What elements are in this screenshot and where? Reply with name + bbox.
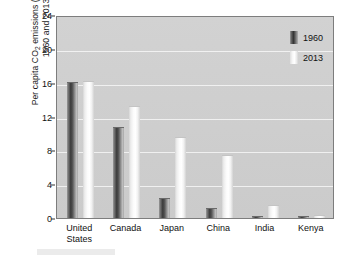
- y-axis-tick-label: 16: [30, 79, 52, 89]
- y-axis-tick-label: 20: [30, 45, 52, 55]
- bar-1960: [113, 127, 124, 218]
- x-axis-category-label: Kenya: [298, 223, 324, 234]
- bar-group: [196, 16, 242, 218]
- bar-2013: [222, 155, 233, 218]
- bar-1960: [298, 216, 309, 218]
- y-axis-tick-label: 24: [30, 11, 52, 21]
- y-axis-tick-mark: [51, 185, 55, 186]
- bar-2013: [268, 205, 279, 218]
- legend-item-1960: 1960: [290, 31, 323, 44]
- y-axis-tick-label: 4: [30, 180, 52, 190]
- y-axis-title-line1-rest: emissions (metric tons),: [30, 0, 40, 46]
- chart-figure: Per capita CO2 emissions (metric tons), …: [0, 0, 352, 259]
- x-axis-category-label: India: [255, 223, 275, 234]
- legend-label-2013: 2013: [303, 53, 323, 63]
- x-axis-category-label: Japan: [160, 223, 185, 234]
- bar-1960: [159, 198, 170, 218]
- x-axis-category-label: United States: [66, 223, 92, 244]
- y-axis-tick-label: 0: [30, 214, 52, 224]
- y-axis-tick-mark: [51, 16, 55, 17]
- bar-2013: [175, 137, 186, 218]
- bar-1960: [252, 216, 263, 218]
- legend-swatch-1960-icon: [290, 31, 298, 44]
- legend-swatch-2013-icon: [290, 51, 298, 64]
- bar-1960: [67, 82, 78, 218]
- legend-label-1960: 1960: [303, 33, 323, 43]
- bar-group: [57, 16, 103, 218]
- y-axis-tick-mark: [51, 49, 55, 50]
- y-axis-tick-mark: [51, 219, 55, 220]
- bar-2013: [129, 106, 140, 218]
- bar-group: [103, 16, 149, 218]
- bar-2013: [83, 81, 94, 218]
- bar-group: [242, 16, 288, 218]
- plot-area: 1960 2013: [56, 16, 334, 219]
- y-axis-tick-mark: [51, 151, 55, 152]
- x-axis-category-label: Canada: [110, 223, 142, 234]
- x-axis-category-label: China: [206, 223, 230, 234]
- bar-group: [150, 16, 196, 218]
- y-axis-tick-mark: [51, 83, 55, 84]
- bar-1960: [206, 208, 217, 218]
- legend-item-2013: 2013: [290, 51, 323, 64]
- y-axis-tick-label: 12: [30, 113, 52, 123]
- chart-legend: 1960 2013: [290, 31, 323, 64]
- page-artifact-strip: [37, 249, 115, 255]
- y-axis-tick-mark: [51, 117, 55, 118]
- y-axis-tick-label: 8: [30, 146, 52, 156]
- bar-2013: [314, 215, 325, 218]
